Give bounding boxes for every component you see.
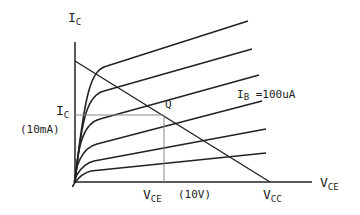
vce-q-value: (10V) (178, 188, 211, 201)
y-axis-label: IC (68, 10, 81, 27)
vcc-label: VCC (263, 187, 282, 204)
ic-value: (10mA) (20, 123, 60, 136)
ib-annotation: IB =100uA (237, 88, 296, 102)
x-axis-label: VCE (320, 175, 339, 192)
characteristic-diagram: IC VCE IB =100uA Q IC (10mA) VCE (10V) V… (0, 0, 360, 215)
load-line (75, 61, 270, 182)
vce-q-label: VCE (143, 187, 162, 204)
q-point-label: Q (165, 98, 172, 111)
ic-label: IC (56, 103, 69, 120)
